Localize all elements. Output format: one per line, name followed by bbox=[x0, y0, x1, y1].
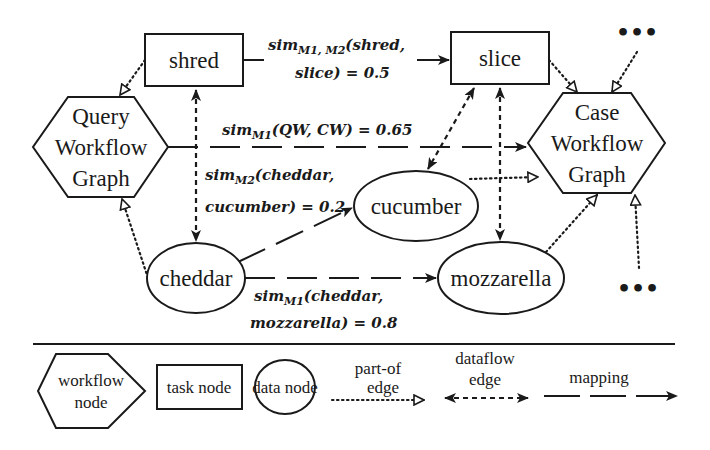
partof-edge-shred-query bbox=[120, 60, 145, 95]
similarity-label-qw-cw: simM1(QW, CW) = 0.65 bbox=[222, 121, 412, 142]
svg-text:simM1(cheddar,: simM1(cheddar, bbox=[254, 287, 383, 308]
legend-dataflow-edge: dataflow edge bbox=[445, 349, 528, 398]
legend-partof-edge: part-of edge bbox=[332, 359, 424, 400]
data-node-cheddar: cheddar bbox=[147, 243, 245, 313]
svg-text:mozzarella) = 0.8: mozzarella) = 0.8 bbox=[250, 314, 398, 332]
svg-text:simM1, M2(shred,: simM1, M2(shred, bbox=[268, 36, 405, 57]
legend-mapping-edge: mapping bbox=[544, 368, 677, 396]
legend-task-node: task node bbox=[157, 365, 242, 409]
similarity-label-cheddar-cucumber: simM2(cheddar, cucumber) = 0.2 bbox=[205, 166, 345, 216]
dataflow-edge-slice-cucumber bbox=[428, 88, 474, 169]
workflow-node-query: Query Workflow Graph bbox=[33, 97, 168, 197]
svg-text:task node: task node bbox=[167, 378, 232, 397]
svg-text:data node: data node bbox=[252, 378, 318, 397]
svg-text:cucumber) = 0.2: cucumber) = 0.2 bbox=[205, 198, 345, 216]
mapping-edge-cheddar-cucumber bbox=[238, 208, 352, 262]
task-node-shred: shred bbox=[145, 34, 243, 86]
legend-workflow-node: workflow node bbox=[38, 354, 145, 428]
node-label: cucumber bbox=[371, 194, 462, 219]
svg-text:simM2(cheddar,: simM2(cheddar, bbox=[205, 166, 334, 187]
workflow-node-case: Case Workflow Graph bbox=[528, 93, 665, 193]
partof-edge-cheddar-query bbox=[122, 199, 148, 278]
legend: workflow node task node data node part-o… bbox=[38, 349, 677, 428]
node-label-line1: Case bbox=[575, 100, 620, 125]
partof-edge-more-case-top bbox=[612, 52, 637, 92]
partof-edge-more-case-bottom bbox=[635, 195, 639, 268]
partof-edge-mozzarella-case bbox=[546, 195, 597, 252]
svg-text:slice) = 0.5: slice) = 0.5 bbox=[295, 64, 390, 82]
similarity-label-shred-slice: simM1, M2(shred, slice) = 0.5 bbox=[268, 36, 405, 82]
node-label: mozzarella bbox=[451, 266, 552, 291]
svg-text:part-of: part-of bbox=[355, 359, 402, 378]
svg-text:workflow: workflow bbox=[58, 371, 125, 390]
node-label: slice bbox=[479, 46, 521, 71]
data-node-cucumber: cucumber bbox=[354, 171, 478, 241]
svg-text:dataflow: dataflow bbox=[455, 349, 515, 368]
svg-text:mapping: mapping bbox=[569, 368, 629, 387]
partof-edge-cucumber-case bbox=[470, 177, 538, 179]
task-node-slice: slice bbox=[451, 32, 549, 84]
legend-data-node: data node bbox=[252, 360, 318, 414]
workflow-mapping-diagram: shred slice Query Workflow Graph Case Wo… bbox=[0, 0, 710, 450]
node-label-line2: Workflow bbox=[551, 131, 644, 156]
node-label-line1: Query bbox=[72, 104, 130, 129]
partof-edge-slice-case bbox=[549, 60, 577, 92]
svg-text:simM1(QW, CW) = 0.65: simM1(QW, CW) = 0.65 bbox=[222, 121, 412, 142]
node-label-line3: Graph bbox=[72, 166, 130, 191]
svg-text:node: node bbox=[74, 393, 107, 412]
svg-text:edge: edge bbox=[469, 370, 501, 389]
node-label: shred bbox=[169, 48, 219, 73]
svg-text:edge: edge bbox=[367, 378, 399, 397]
more-nodes-bottom-ellipsis: ••• bbox=[617, 276, 659, 301]
node-label: cheddar bbox=[160, 266, 233, 291]
node-label-line3: Graph bbox=[568, 162, 626, 187]
similarity-label-cheddar-mozzarella: simM1(cheddar, mozzarella) = 0.8 bbox=[250, 287, 398, 332]
data-node-mozzarella: mozzarella bbox=[438, 242, 564, 314]
node-label-line2: Workflow bbox=[55, 135, 148, 160]
more-nodes-top-ellipsis: ••• bbox=[616, 20, 658, 45]
